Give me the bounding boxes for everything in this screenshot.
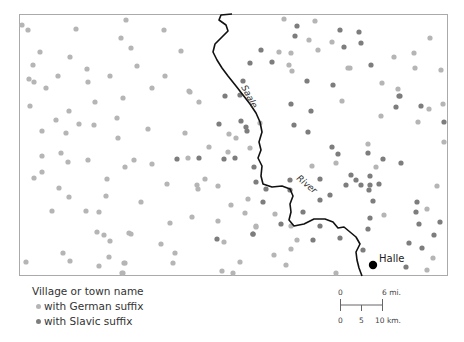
german-village-dot bbox=[120, 95, 125, 100]
slavic-village-dot bbox=[367, 173, 372, 178]
german-dot-icon bbox=[36, 304, 41, 309]
german-village-dot bbox=[115, 135, 120, 140]
slavic-village-dot bbox=[418, 103, 423, 108]
slavic-village-dot bbox=[366, 187, 371, 192]
german-village-dot bbox=[96, 209, 101, 214]
german-village-dot bbox=[106, 254, 111, 259]
slavic-village-dot bbox=[335, 151, 340, 156]
slavic-village-dot bbox=[288, 101, 293, 106]
german-village-dot bbox=[381, 212, 386, 217]
german-village-dot bbox=[187, 89, 192, 94]
german-village-dot bbox=[83, 208, 88, 213]
slavic-village-dot bbox=[327, 192, 332, 197]
german-village-dot bbox=[286, 62, 291, 67]
german-village-dot bbox=[215, 218, 220, 223]
german-village-dot bbox=[195, 186, 200, 191]
slavic-village-dot bbox=[269, 59, 274, 64]
german-village-dot bbox=[309, 163, 314, 168]
slavic-village-dot bbox=[196, 155, 201, 160]
scale-km-label: 10 km. bbox=[375, 316, 401, 325]
german-village-dot bbox=[167, 220, 172, 225]
german-village-dot bbox=[67, 258, 72, 263]
slavic-village-dot bbox=[330, 82, 335, 87]
german-village-dot bbox=[60, 250, 65, 255]
slavic-village-dot bbox=[260, 199, 265, 204]
german-village-dot bbox=[215, 183, 220, 188]
legend-slavic-label: with Slavic suffix bbox=[44, 315, 132, 327]
german-village-dot bbox=[347, 65, 352, 70]
german-village-dot bbox=[391, 54, 396, 59]
german-village-dot bbox=[107, 238, 112, 243]
slavic-village-dot bbox=[337, 27, 342, 32]
slavic-village-dot bbox=[174, 156, 179, 161]
german-village-dot bbox=[329, 39, 334, 44]
halle-city-marker bbox=[369, 261, 377, 269]
slavic-village-dot bbox=[317, 176, 322, 181]
german-village-dot bbox=[438, 67, 443, 72]
german-village-dot bbox=[121, 260, 126, 265]
german-village-dot bbox=[114, 115, 119, 120]
slavic-village-dot bbox=[370, 198, 375, 203]
german-village-dot bbox=[103, 193, 108, 198]
german-village-dot bbox=[39, 153, 44, 158]
german-village-dot bbox=[53, 117, 58, 122]
german-village-dot bbox=[426, 106, 431, 111]
german-village-dot bbox=[206, 144, 211, 149]
german-village-dot bbox=[221, 239, 226, 244]
slavic-village-dot bbox=[437, 219, 442, 224]
german-village-dot bbox=[138, 199, 143, 204]
german-village-dot bbox=[365, 141, 370, 146]
slavic-village-dot bbox=[416, 221, 421, 226]
german-village-dot bbox=[23, 259, 28, 264]
german-village-dot bbox=[118, 35, 123, 40]
map-frame bbox=[20, 15, 448, 276]
german-village-dot bbox=[288, 246, 293, 251]
legend-german-label: with German suffix bbox=[44, 300, 144, 312]
german-village-dot bbox=[58, 150, 63, 155]
german-village-dot bbox=[31, 175, 36, 180]
legend-slavic: with Slavic suffix bbox=[32, 314, 144, 329]
german-village-dot bbox=[294, 237, 299, 242]
slavic-village-dot bbox=[380, 156, 385, 161]
german-village-dot bbox=[245, 196, 250, 201]
german-village-dot bbox=[202, 176, 207, 181]
slavic-village-dot bbox=[365, 150, 370, 155]
slavic-village-dot bbox=[238, 118, 243, 123]
german-village-dot bbox=[85, 79, 90, 84]
german-village-dot bbox=[237, 259, 242, 264]
german-village-dot bbox=[119, 270, 124, 275]
german-village-dot bbox=[411, 50, 416, 55]
slavic-village-dot bbox=[294, 23, 299, 28]
german-village-dot bbox=[415, 119, 420, 124]
german-village-dot bbox=[233, 135, 238, 140]
german-village-dot bbox=[306, 37, 311, 42]
german-village-dot bbox=[123, 17, 128, 22]
german-village-dot bbox=[85, 157, 90, 162]
german-village-dot bbox=[172, 250, 177, 255]
german-village-dot bbox=[430, 255, 435, 260]
slavic-village-dot bbox=[305, 129, 310, 134]
german-village-dot bbox=[379, 80, 384, 85]
slavic-village-dot bbox=[414, 199, 419, 204]
german-village-dot bbox=[91, 122, 96, 127]
german-village-dot bbox=[185, 155, 190, 160]
german-village-dot bbox=[25, 27, 30, 32]
german-village-dot bbox=[164, 181, 169, 186]
slavic-village-dot bbox=[413, 209, 418, 214]
german-village-dot bbox=[283, 262, 288, 267]
german-village-dot bbox=[92, 99, 97, 104]
german-village-dot bbox=[289, 68, 294, 73]
scale-miles-label: 6 mi. bbox=[382, 288, 401, 297]
german-village-dot bbox=[276, 49, 281, 54]
slavic-village-dot bbox=[358, 40, 363, 45]
german-village-dot bbox=[26, 76, 31, 81]
german-village-dot bbox=[96, 263, 101, 268]
slavic-village-dot bbox=[292, 33, 297, 38]
german-village-dot bbox=[145, 126, 150, 131]
slavic-village-dot bbox=[250, 231, 255, 236]
slavic-village-dot bbox=[317, 223, 322, 228]
german-village-dot bbox=[107, 73, 112, 78]
german-village-dot bbox=[427, 35, 432, 40]
scale-ruler bbox=[330, 298, 410, 312]
german-village-dot bbox=[395, 86, 400, 91]
